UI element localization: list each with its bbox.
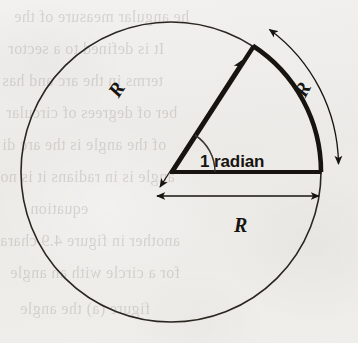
scanned-figure-page: he angular measure of the It is defined … (0, 0, 358, 343)
angle-marker-arc (195, 135, 215, 172)
radian-diagram (0, 0, 358, 343)
radius-diagonal-line (172, 47, 254, 174)
dimension-arrow-arc (270, 30, 339, 165)
dimension-arrow-radius-diagonal (160, 61, 242, 187)
sector-arc (253, 46, 321, 172)
